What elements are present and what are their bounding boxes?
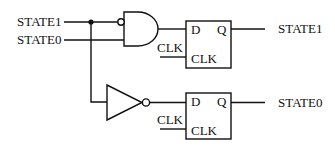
ff2-pin-q: Q — [217, 94, 227, 109]
output-label-state0: STATE0 — [278, 95, 322, 110]
inverter-bubble-icon — [142, 99, 149, 106]
circuit-diagram: STATE1 STATE0 D Q CLK CLK STATE1 D Q CLK… — [0, 0, 335, 148]
ff1-pin-clk: CLK — [191, 51, 218, 66]
wire-branch-to-inverter — [91, 22, 107, 102]
not-gate — [107, 85, 150, 120]
ff1-pin-q: Q — [217, 22, 227, 37]
inversion-bubble-icon — [118, 19, 124, 25]
flipflop-2: D Q CLK — [186, 93, 231, 139]
and-gate — [118, 12, 158, 46]
input-label-state0: STATE0 — [17, 32, 61, 47]
input-label-state1: STATE1 — [17, 14, 61, 29]
ff1-clk-input-label: CLK — [157, 40, 184, 55]
flipflop-1: D Q CLK — [186, 21, 231, 68]
output-label-state1: STATE1 — [278, 21, 322, 36]
ff2-pin-clk: CLK — [191, 123, 218, 138]
ff2-pin-d: D — [191, 94, 200, 109]
ff1-pin-d: D — [191, 22, 200, 37]
ff2-clk-input-label: CLK — [157, 112, 184, 127]
